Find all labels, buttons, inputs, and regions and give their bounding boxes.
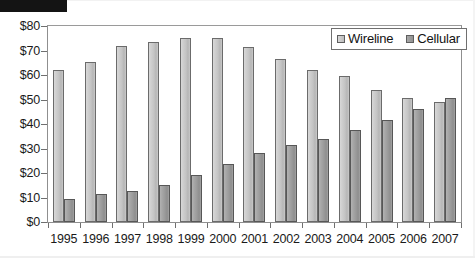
- x-axis-tick-label: 1995: [50, 232, 77, 246]
- bar-group: [143, 26, 175, 222]
- bar-wireline-2001: [243, 47, 254, 222]
- bar-cellular-2006: [413, 109, 424, 222]
- bar-group: [80, 26, 112, 222]
- x-axis-tick-label: 2006: [400, 232, 427, 246]
- x-axis-tick: [270, 223, 271, 228]
- x-axis-tick-label: 2000: [209, 232, 236, 246]
- bar-cellular-2004: [350, 130, 361, 222]
- legend-swatch-wireline: [337, 35, 345, 43]
- y-axis-tick: [41, 51, 47, 52]
- bar-wireline-2003: [307, 70, 318, 222]
- x-axis-tick-label: 2001: [241, 232, 268, 246]
- y-axis-tick-label: $30: [20, 142, 40, 156]
- bar-group: [239, 26, 271, 222]
- bar-cellular-1996: [96, 194, 107, 222]
- y-axis-tick-label: $20: [20, 166, 40, 180]
- bar-group: [334, 26, 366, 222]
- y-axis-tick: [41, 173, 47, 174]
- bar-cellular-2005: [382, 120, 393, 222]
- y-axis-tick-label: $50: [20, 93, 40, 107]
- y-axis-tick-label: $70: [20, 44, 40, 58]
- scan-edge-top: [0, 0, 475, 1]
- bar-wireline-2002: [275, 59, 286, 222]
- chart-legend: Wireline Cellular: [331, 28, 467, 50]
- bar-cellular-1997: [127, 191, 138, 222]
- y-axis-tick-label: $60: [20, 68, 40, 82]
- legend-item-cellular: Cellular: [406, 31, 459, 46]
- bar-wireline-1997: [116, 46, 127, 222]
- bar-group: [366, 26, 398, 222]
- y-axis-tick-label: $40: [20, 117, 40, 131]
- bar-wireline-2007: [434, 102, 445, 222]
- bar-cellular-2002: [286, 145, 297, 222]
- x-axis-tick: [207, 223, 208, 228]
- x-axis-tick-label: 2007: [432, 232, 459, 246]
- bar-group: [175, 26, 207, 222]
- y-axis-tick: [41, 100, 47, 101]
- bar-cellular-2001: [254, 153, 265, 222]
- y-axis-tick-label: $0: [26, 215, 40, 229]
- x-axis-tick: [143, 223, 144, 228]
- x-axis-tick: [429, 223, 430, 228]
- y-axis-tick: [41, 124, 47, 125]
- y-axis-tick: [41, 26, 47, 27]
- x-axis-tick-label: 1996: [82, 232, 109, 246]
- y-axis-tick: [41, 222, 47, 223]
- bar-wireline-2004: [339, 76, 350, 222]
- bar-group: [397, 26, 429, 222]
- x-axis-tick: [112, 223, 113, 228]
- x-axis-tick: [397, 223, 398, 228]
- bar-cellular-2000: [223, 164, 234, 222]
- bar-cellular-2007: [445, 98, 456, 222]
- x-axis-tick: [239, 223, 240, 228]
- bar-cellular-1999: [191, 175, 202, 222]
- x-axis-tick-label: 2005: [368, 232, 395, 246]
- x-axis-tick: [175, 223, 176, 228]
- legend-label-cellular: Cellular: [417, 31, 459, 46]
- bar-group: [112, 26, 144, 222]
- y-axis-tick: [41, 198, 47, 199]
- plot-area: [48, 26, 461, 222]
- y-axis-tick: [41, 149, 47, 150]
- bar-cellular-2003: [318, 139, 329, 222]
- bar-wireline-2006: [402, 98, 413, 222]
- x-axis-tick: [80, 223, 81, 228]
- legend-label-wireline: Wireline: [348, 31, 393, 46]
- bar-wireline-1998: [148, 42, 159, 222]
- x-axis-tick-label: 1998: [146, 232, 173, 246]
- x-axis-tick-label: 2004: [336, 232, 363, 246]
- bar-cellular-1995: [64, 199, 75, 222]
- y-axis-tick-label: $80: [20, 19, 40, 33]
- legend-swatch-cellular: [406, 35, 414, 43]
- bar-group: [302, 26, 334, 222]
- bar-wireline-2000: [212, 38, 223, 222]
- x-axis-tick: [48, 223, 49, 228]
- x-axis-tick-label: 1999: [177, 232, 204, 246]
- x-axis-tick: [334, 223, 335, 228]
- bar-group: [207, 26, 239, 222]
- x-axis-tick: [302, 223, 303, 228]
- bar-group: [429, 26, 461, 222]
- x-axis-tick: [366, 223, 367, 228]
- bar-chart: $0$10$20$30$40$50$60$70$80 1995199619971…: [0, 0, 475, 258]
- y-axis-tick-label: $10: [20, 191, 40, 205]
- bar-group: [48, 26, 80, 222]
- bar-group: [270, 26, 302, 222]
- bar-cellular-1998: [159, 185, 170, 222]
- y-axis: $0$10$20$30$40$50$60$70$80: [0, 0, 46, 258]
- x-axis-tick-label: 2003: [305, 232, 332, 246]
- legend-item-wireline: Wireline: [337, 31, 393, 46]
- bar-wireline-2005: [371, 90, 382, 222]
- x-axis-tick: [461, 223, 462, 228]
- x-axis-tick-label: 1997: [114, 232, 141, 246]
- x-axis-tick-label: 2002: [273, 232, 300, 246]
- bar-wireline-1995: [53, 70, 64, 222]
- bar-wireline-1999: [180, 38, 191, 222]
- y-axis-tick: [41, 75, 47, 76]
- bar-wireline-1996: [85, 62, 96, 222]
